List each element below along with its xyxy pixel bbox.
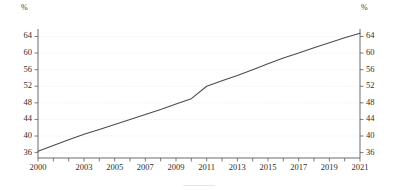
figure-caption: ———— bbox=[0, 182, 398, 190]
data-series-line bbox=[38, 33, 360, 151]
y-axis-tick-label-left: 52 bbox=[10, 81, 32, 90]
y-axis-tick-label-left: 64 bbox=[10, 31, 32, 40]
x-axis-tick-label: 2000 bbox=[18, 163, 58, 172]
chart-figure: % % 3640444852566064 3640444852566064 20… bbox=[0, 0, 398, 190]
y-axis-tick-label-left: 36 bbox=[10, 148, 32, 157]
y-axis-tick-label-right: 36 bbox=[366, 148, 388, 157]
y-axis-tick-label-left: 44 bbox=[10, 114, 32, 123]
left-axis-unit-label: % bbox=[21, 3, 28, 12]
y-axis-tick-label-right: 48 bbox=[366, 98, 388, 107]
y-axis-tick-label-left: 60 bbox=[10, 48, 32, 57]
y-axis-tick-label-right: 52 bbox=[366, 81, 388, 90]
y-axis-tick-label-left: 48 bbox=[10, 98, 32, 107]
y-axis-tick-label-right: 40 bbox=[366, 131, 388, 140]
y-axis-tick-label-right: 64 bbox=[366, 31, 388, 40]
x-tick-marks-group bbox=[38, 158, 360, 162]
right-axis-unit-label: % bbox=[361, 3, 368, 12]
y-axis-tick-label-right: 60 bbox=[366, 48, 388, 57]
y-tick-marks-left-group bbox=[35, 36, 39, 152]
caption-clip: ———— bbox=[0, 182, 398, 190]
y-tick-marks-right-group bbox=[360, 36, 364, 152]
y-axis-tick-label-right: 44 bbox=[366, 114, 388, 123]
y-axis-tick-label-left: 40 bbox=[10, 131, 32, 140]
gridlines-group bbox=[39, 36, 359, 152]
y-axis-tick-label-left: 56 bbox=[10, 65, 32, 74]
x-axis-tick-label: 2021 bbox=[340, 163, 380, 172]
y-axis-tick-label-right: 56 bbox=[366, 65, 388, 74]
